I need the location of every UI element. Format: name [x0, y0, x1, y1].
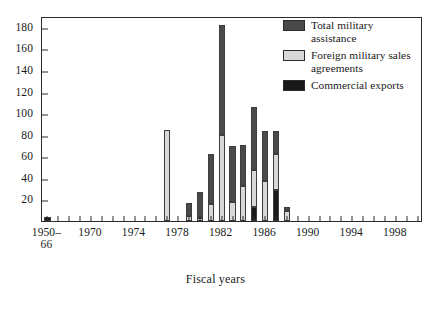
x-tick-label: 1998 [383, 226, 406, 238]
x-tick-mark [286, 216, 287, 221]
y-tick-label: 120 [15, 87, 33, 99]
y-tick-label: 100 [15, 108, 33, 120]
x-tick-mark [406, 216, 407, 221]
bar-segment [219, 135, 225, 221]
bar [273, 131, 279, 221]
bar-segment [251, 107, 257, 171]
x-tick-mark [341, 216, 342, 221]
y-tick-mark [42, 93, 48, 94]
legend-label-total-military-assistance: Total military assistance [311, 19, 421, 45]
x-tick-label: 1978 [165, 226, 188, 238]
x-tick-mark [352, 216, 353, 221]
y-tick-mark [42, 136, 48, 137]
x-tick-mark [112, 216, 113, 221]
x-tick-mark [417, 216, 418, 221]
x-tick-label: 1986 [252, 226, 275, 238]
x-tick-mark [188, 216, 189, 221]
x-tick-mark [58, 216, 59, 221]
y-tick-mark [42, 50, 48, 51]
x-tick-mark [265, 216, 266, 221]
x-tick-mark [232, 216, 233, 221]
legend-item-commercial-exports: Commercial exports [283, 79, 421, 92]
y-tick-label: 160 [15, 44, 33, 56]
x-tick-mark [210, 216, 211, 221]
x-tick-mark [363, 216, 364, 221]
legend-item-foreign-military-sales: Foreign military sales agreements [283, 49, 421, 75]
y-tick-label: 40 [21, 173, 33, 185]
bar [219, 25, 225, 221]
y-tick-label: 140 [15, 65, 33, 77]
bar-segment [251, 170, 257, 207]
bar [262, 131, 268, 221]
x-tick-mark [156, 216, 157, 221]
bar-segment [273, 131, 279, 154]
x-tick-label: 1970 [78, 226, 101, 238]
x-tick-mark [308, 216, 309, 221]
x-tick-mark [199, 216, 200, 221]
x-tick-mark [330, 216, 331, 221]
x-tick-mark [319, 216, 320, 221]
y-tick-mark [42, 179, 48, 180]
x-tick-mark [178, 216, 179, 221]
x-tick-mark [384, 216, 385, 221]
x-tick-mark [243, 216, 244, 221]
legend-swatch-commercial-exports [283, 80, 305, 91]
bar-segment [186, 203, 192, 216]
y-tick-label: 180 [15, 22, 33, 34]
x-tick-mark [221, 216, 222, 221]
bar-segment [262, 181, 268, 221]
bar-segment [208, 154, 214, 204]
x-tick-mark [276, 216, 277, 221]
bar [229, 145, 235, 221]
x-tick-mark [47, 216, 48, 221]
bar-segment [273, 154, 279, 190]
x-tick-label: 1950– 66 [32, 226, 61, 251]
x-tick-label: 1974 [122, 226, 145, 238]
bar [240, 145, 246, 221]
y-tick-mark [42, 115, 48, 116]
bar-segment [219, 25, 225, 135]
x-tick-mark [145, 216, 146, 221]
x-tick-mark [90, 216, 91, 221]
legend-label-commercial-exports: Commercial exports [311, 79, 404, 92]
bar [164, 130, 170, 221]
bar-segment [284, 207, 290, 211]
x-tick-label: 1990 [296, 226, 319, 238]
x-tick-mark [123, 216, 124, 221]
legend-item-total-military-assistance: Total military assistance [283, 19, 421, 45]
bar-segment [164, 130, 170, 221]
legend-label-foreign-military-sales: Foreign military sales agreements [311, 49, 421, 75]
y-tick-mark [42, 28, 48, 29]
x-tick-mark [134, 216, 135, 221]
y-tick-mark [42, 71, 48, 72]
chart-figure: 20406080100120140160180 1950– 6619701974… [0, 0, 431, 313]
y-tick-label: 80 [21, 130, 33, 142]
x-tick-mark [374, 216, 375, 221]
bar-segment [229, 146, 235, 202]
x-tick-mark [80, 216, 81, 221]
chart-legend: Total military assistance Foreign milita… [283, 19, 421, 96]
x-tick-label: 1982 [209, 226, 232, 238]
x-tick-mark [69, 216, 70, 221]
y-axis: 20406080100120140160180 [0, 17, 38, 222]
bar [208, 154, 214, 221]
x-tick-mark [254, 216, 255, 221]
y-tick-label: 20 [21, 195, 33, 207]
x-tick-mark [395, 216, 396, 221]
bar-segment [240, 145, 246, 186]
y-tick-label: 60 [21, 152, 33, 164]
x-tick-mark [167, 216, 168, 221]
bar-segment [262, 131, 268, 181]
y-tick-mark [42, 158, 48, 159]
x-axis-title: Fiscal years [0, 272, 431, 287]
legend-swatch-foreign-military-sales [283, 50, 305, 61]
x-tick-mark [101, 216, 102, 221]
legend-swatch-total-military-assistance [283, 20, 305, 31]
x-tick-label: 1994 [340, 226, 363, 238]
x-tick-mark [297, 216, 298, 221]
bar [251, 107, 257, 221]
y-tick-mark [42, 201, 48, 202]
bar-segment [197, 192, 203, 218]
